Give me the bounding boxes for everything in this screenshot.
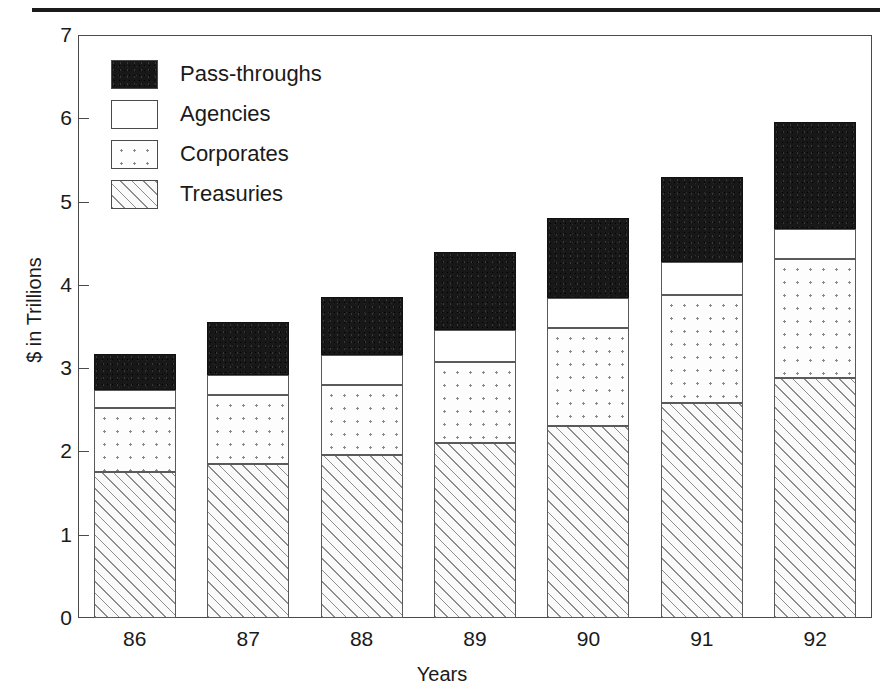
y-tick-mark: [78, 451, 89, 452]
bar-group-91: [661, 35, 743, 618]
y-tick-label-1: 1: [40, 524, 72, 545]
bar-segment-87-agencies: [207, 375, 289, 395]
y-tick-label-4: 4: [40, 274, 72, 295]
y-tick-mark: [78, 118, 89, 119]
bar-segment-86-corporates: [94, 408, 176, 472]
bar-segment-90-agencies: [547, 298, 629, 328]
bar-segment-88-agencies: [321, 355, 403, 385]
bar-segment-89-agencies: [434, 330, 516, 362]
x-tick-label-86: 86: [90, 628, 180, 649]
y-tick-label-0: 0: [40, 607, 72, 628]
bar-segment-91-corporates: [661, 295, 743, 403]
legend-label: Corporates: [180, 138, 289, 170]
bar-segment-86-agencies: [94, 390, 176, 408]
bar-segment-91-treasuries: [661, 403, 743, 618]
bar-group-92: [774, 35, 856, 618]
bar-segment-92-pass-throughs: [774, 122, 856, 229]
dotted-swatch: [111, 140, 158, 169]
bar-segment-88-corporates: [321, 385, 403, 455]
bar-segment-91-agencies: [661, 262, 743, 294]
x-axis-title: Years: [0, 664, 884, 684]
legend-label: Pass-throughs: [180, 58, 322, 90]
solid-black-swatch: [111, 60, 158, 89]
white-swatch: [111, 100, 158, 129]
bar-segment-92-corporates: [774, 259, 856, 378]
bar-segment-86-treasuries: [94, 472, 176, 618]
bar-group-89: [434, 35, 516, 618]
y-tick-label-6: 6: [40, 107, 72, 128]
bar-segment-88-pass-throughs: [321, 297, 403, 355]
bar-segment-91-pass-throughs: [661, 177, 743, 263]
y-tick-label-5: 5: [40, 191, 72, 212]
hatched-swatch: [111, 180, 158, 209]
bar-segment-87-corporates: [207, 395, 289, 464]
bar-segment-86-pass-throughs: [94, 354, 176, 390]
x-tick-label-91: 91: [657, 628, 747, 649]
header-rule: [32, 8, 880, 12]
y-tick-label-7: 7: [40, 24, 72, 45]
x-tick-label-87: 87: [203, 628, 293, 649]
bar-segment-87-treasuries: [207, 464, 289, 618]
y-tick-label-3: 3: [40, 357, 72, 378]
bar-segment-89-corporates: [434, 362, 516, 443]
y-tick-mark: [78, 535, 89, 536]
bar-segment-92-treasuries: [774, 378, 856, 618]
x-tick-label-88: 88: [317, 628, 407, 649]
bar-segment-88-treasuries: [321, 455, 403, 618]
bar-segment-90-corporates: [547, 328, 629, 426]
bar-group-90: [547, 35, 629, 618]
bar-segment-90-pass-throughs: [547, 218, 629, 298]
bar-segment-90-treasuries: [547, 426, 629, 618]
y-tick-label-2: 2: [40, 440, 72, 461]
x-tick-label-89: 89: [430, 628, 520, 649]
bar-segment-89-pass-throughs: [434, 252, 516, 330]
y-axis-title: $ in Trillions: [24, 210, 44, 410]
y-tick-mark: [78, 202, 89, 203]
y-tick-mark: [78, 285, 89, 286]
legend-label: Treasuries: [180, 178, 283, 210]
bar-segment-89-treasuries: [434, 443, 516, 618]
legend-label: Agencies: [180, 98, 271, 130]
stacked-bar-chart: $ in Trillions 01234567 86878889909192 Y…: [0, 0, 884, 688]
x-tick-label-92: 92: [770, 628, 860, 649]
bar-segment-92-agencies: [774, 229, 856, 259]
bar-segment-87-pass-throughs: [207, 322, 289, 374]
x-tick-label-90: 90: [543, 628, 633, 649]
bar-group-88: [321, 35, 403, 618]
y-tick-mark: [78, 368, 89, 369]
